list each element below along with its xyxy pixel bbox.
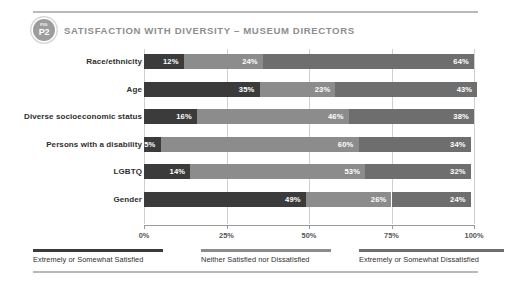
- category-axis: Race/ethnicityAgeDiverse socioeconomic s…: [12, 49, 142, 224]
- axis-tick-label: 50%: [302, 231, 317, 240]
- legend-label: Extremely or Somewhat Satisfied: [33, 255, 163, 264]
- gridline: [474, 49, 475, 224]
- bar-segment: 64%: [263, 54, 474, 69]
- bar-segment: 46%: [197, 109, 349, 124]
- figure-panel: FIG P2 SATISFACTION WITH DIVERSITY – MUS…: [0, 0, 506, 285]
- legend-label: Extremely or Somewhat Dissatisfied: [359, 255, 504, 264]
- bottom-divider: [33, 271, 478, 273]
- bar-segment: 14%: [144, 164, 190, 179]
- bar-segment: 24%: [184, 54, 263, 69]
- legend-item: Extremely or Somewhat Dissatisfied: [359, 249, 504, 264]
- bar-row: 14%53%32%: [144, 164, 474, 179]
- legend-swatch: [201, 249, 331, 252]
- category-label: Gender: [113, 192, 142, 207]
- axis-tick: [474, 225, 475, 229]
- bar-row: 5%60%34%: [144, 137, 474, 152]
- axis-tick-label: 100%: [465, 231, 484, 240]
- legend-label: Neither Satisfied nor Dissatisfied: [201, 255, 331, 264]
- category-label: Race/ethnicity: [86, 54, 142, 69]
- bar-segment: 49%: [144, 192, 306, 207]
- legend-item: Extremely or Somewhat Satisfied: [33, 249, 163, 264]
- bar-segment: 26%: [306, 192, 392, 207]
- bar-row: 49%26%24%: [144, 192, 474, 207]
- page-title: SATISFACTION WITH DIVERSITY – MUSEUM DIR…: [64, 25, 355, 36]
- category-label: Diverse socioeconomic status: [24, 109, 142, 124]
- bar-segment: 34%: [359, 137, 471, 152]
- axis-tick-label: 0%: [139, 231, 150, 240]
- figure-number-badge: FIG P2: [33, 19, 55, 41]
- bar-segment: 43%: [335, 82, 477, 97]
- legend-swatch: [359, 249, 504, 252]
- bar-rows: 12%24%64%35%23%43%16%46%38%5%60%34%14%53…: [144, 49, 474, 224]
- bar-segment: 16%: [144, 109, 197, 124]
- bar-row: 35%23%43%: [144, 82, 474, 97]
- bar-row: 16%46%38%: [144, 109, 474, 124]
- plot-area: 12%24%64%35%23%43%16%46%38%5%60%34%14%53…: [144, 49, 474, 224]
- axis-tick: [144, 225, 145, 229]
- bar-segment: 53%: [190, 164, 365, 179]
- bar-segment: 12%: [144, 54, 184, 69]
- figure-badge-number: P2: [39, 28, 50, 37]
- stacked-bar-chart: Race/ethnicityAgeDiverse socioeconomic s…: [12, 49, 494, 224]
- bar-segment: 24%: [392, 192, 471, 207]
- legend-swatch: [33, 249, 163, 252]
- legend-item: Neither Satisfied nor Dissatisfied: [201, 249, 331, 264]
- axis-tick-label: 75%: [384, 231, 399, 240]
- bar-row: 12%24%64%: [144, 54, 474, 69]
- figure-header: FIG P2 SATISFACTION WITH DIVERSITY – MUS…: [33, 19, 355, 41]
- chart-legend: Extremely or Somewhat SatisfiedNeither S…: [33, 249, 478, 269]
- axis-tick: [392, 225, 393, 229]
- category-label: Age: [127, 82, 142, 97]
- category-label: Persons with a disability: [46, 137, 142, 152]
- bar-segment: 32%: [365, 164, 471, 179]
- bar-segment: 60%: [161, 137, 359, 152]
- top-divider: [33, 11, 478, 13]
- bar-segment: 35%: [144, 82, 260, 97]
- axis-tick: [309, 225, 310, 229]
- axis-tick: [227, 225, 228, 229]
- bar-segment: 23%: [260, 82, 336, 97]
- bar-segment: 5%: [144, 137, 161, 152]
- axis-tick-label: 25%: [219, 231, 234, 240]
- bar-segment: 38%: [349, 109, 474, 124]
- category-label: LGBTQ: [114, 164, 143, 179]
